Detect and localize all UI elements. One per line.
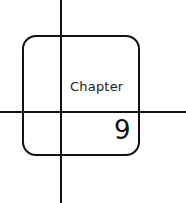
vertical-crosshair-line <box>60 0 62 203</box>
chapter-number: 9 <box>114 117 131 143</box>
chapter-label: Chapter <box>70 79 123 94</box>
horizontal-crosshair-line <box>0 111 186 113</box>
